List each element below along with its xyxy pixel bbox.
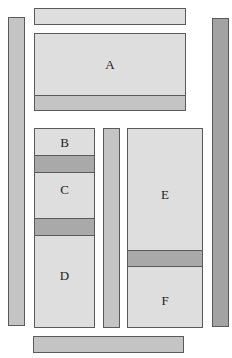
region-f: F bbox=[127, 266, 203, 328]
region-b-label: B bbox=[35, 136, 94, 150]
region-f-label: F bbox=[128, 294, 202, 308]
band-c-d bbox=[34, 218, 95, 236]
region-a-label: A bbox=[35, 58, 185, 72]
region-d-label: D bbox=[35, 269, 94, 283]
top-strip bbox=[34, 8, 186, 25]
middle-bar bbox=[103, 128, 120, 328]
region-d: D bbox=[34, 235, 95, 328]
bottom-strip bbox=[33, 336, 184, 353]
left-side-bar bbox=[8, 17, 25, 326]
region-c: C bbox=[34, 172, 95, 219]
region-b: B bbox=[34, 128, 95, 156]
region-a-footer-band bbox=[34, 95, 186, 111]
region-e: E bbox=[127, 128, 203, 251]
region-e-label: E bbox=[128, 188, 202, 202]
right-side-bar bbox=[212, 18, 229, 327]
band-b-c bbox=[34, 155, 95, 173]
band-e-f bbox=[127, 250, 203, 267]
region-c-label: C bbox=[35, 183, 94, 197]
